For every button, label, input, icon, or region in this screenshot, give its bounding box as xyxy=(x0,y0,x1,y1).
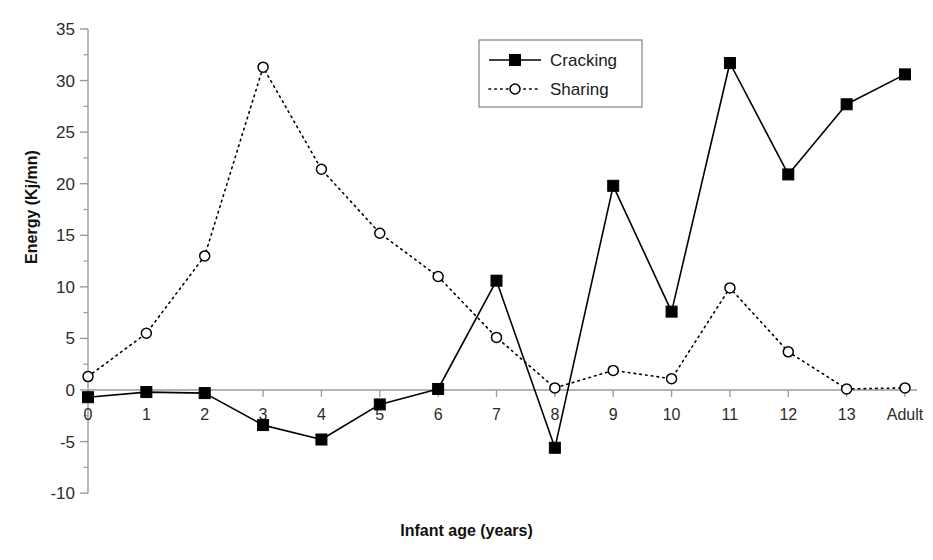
data-point-marker xyxy=(900,69,911,80)
y-axis-tick-label: 20 xyxy=(56,175,75,194)
x-axis-tick-label: 11 xyxy=(722,406,739,423)
x-axis-tick-label: 2 xyxy=(200,406,209,423)
x-axis-tick-label: Adult xyxy=(887,406,924,423)
y-axis-tick-label: 30 xyxy=(56,72,75,91)
data-point-marker xyxy=(783,347,793,357)
data-point-marker xyxy=(783,169,794,180)
y-axis-title: Energy (Kj/mn) xyxy=(23,97,41,317)
x-axis-tick-label: 1 xyxy=(142,406,151,423)
x-axis-tick-label: 8 xyxy=(550,406,559,423)
y-axis-tick-label: 10 xyxy=(56,278,75,297)
data-point-marker xyxy=(608,180,619,191)
y-axis-tick-label: -5 xyxy=(60,433,75,452)
data-point-marker xyxy=(900,383,910,393)
data-point-marker xyxy=(725,283,735,293)
data-point-marker xyxy=(374,399,385,410)
data-point-marker xyxy=(667,374,677,384)
data-point-marker xyxy=(375,228,385,238)
data-point-marker xyxy=(724,58,735,69)
y-axis-tick-label: 35 xyxy=(56,20,75,39)
data-point-marker xyxy=(608,365,618,375)
x-axis-tick-label: 6 xyxy=(434,406,443,423)
data-point-marker xyxy=(549,442,560,453)
data-point-marker xyxy=(550,383,560,393)
y-axis-tick-label: 15 xyxy=(56,226,75,245)
data-point-marker xyxy=(666,306,677,317)
chart-container: Energy (Kj/mn) Infant age (years) -10-50… xyxy=(0,0,933,560)
data-point-marker xyxy=(433,272,443,282)
data-point-marker xyxy=(492,332,502,342)
y-axis: -10-505101520253035 xyxy=(50,20,88,503)
y-axis-tick-label: 5 xyxy=(66,329,75,348)
x-axis-tick-label: 0 xyxy=(84,406,93,423)
data-point-marker xyxy=(200,251,210,261)
x-axis-tick-label: 12 xyxy=(779,406,797,423)
data-point-marker xyxy=(83,392,94,403)
y-axis-tick-label: -10 xyxy=(50,484,75,503)
legend-item-label: Cracking xyxy=(550,51,617,70)
x-axis-tick-label: 7 xyxy=(492,406,501,423)
data-point-marker xyxy=(141,328,151,338)
x-axis-tick-label: 4 xyxy=(317,406,326,423)
data-point-marker xyxy=(83,372,93,382)
chart-legend: CrackingSharing xyxy=(479,40,642,107)
data-point-marker xyxy=(316,434,327,445)
x-axis-tick-label: 9 xyxy=(609,406,618,423)
chart-plot-area: -10-505101520253035 012345678910111213Ad… xyxy=(0,0,933,560)
data-point-marker xyxy=(316,164,326,174)
legend-marker-sample xyxy=(510,84,520,94)
data-point-marker xyxy=(199,388,210,399)
data-point-marker xyxy=(258,420,269,431)
y-axis-tick-label: 25 xyxy=(56,123,75,142)
data-point-marker xyxy=(842,384,852,394)
data-point-marker xyxy=(141,387,152,398)
data-point-marker xyxy=(841,99,852,110)
x-axis-tick-label: 10 xyxy=(663,406,681,423)
x-axis-title: Infant age (years) xyxy=(0,522,933,540)
x-axis-tick-label: 13 xyxy=(838,406,856,423)
data-point-marker xyxy=(491,275,502,286)
data-point-marker xyxy=(258,62,268,72)
data-point-marker xyxy=(433,383,444,394)
legend-item-label: Sharing xyxy=(550,80,609,99)
legend-marker-sample xyxy=(510,55,521,66)
y-axis-tick-label: 0 xyxy=(66,381,75,400)
